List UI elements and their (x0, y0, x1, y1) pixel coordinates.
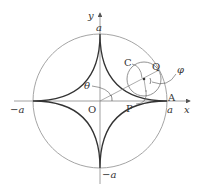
label-theta: θ (84, 80, 90, 91)
label-x: x (184, 104, 190, 115)
label-O: O (88, 104, 96, 115)
theta-leader (92, 86, 111, 96)
label-left-a: −a (10, 104, 24, 115)
label-phi: φ (177, 64, 184, 75)
astroid-diagram: y x a −a −a a O A C Q P θ φ (0, 0, 201, 195)
label-P: P (126, 103, 133, 114)
label-right-a: a (167, 104, 173, 115)
segment-to-curve (144, 79, 146, 92)
label-Q: Q (152, 61, 160, 72)
label-bottom-a: −a (102, 169, 116, 180)
label-y: y (87, 10, 94, 21)
center-dot (143, 78, 146, 81)
label-C: C (124, 57, 132, 68)
label-A: A (167, 92, 176, 103)
phi-arc (150, 78, 151, 84)
label-top-a: a (96, 22, 102, 33)
